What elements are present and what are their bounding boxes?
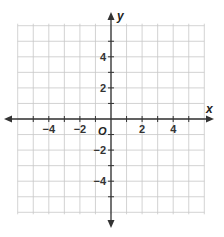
y-tick-label: 2 xyxy=(100,82,106,94)
x-tick-label: 4 xyxy=(170,123,177,135)
x-axis-left-arrow-icon xyxy=(4,116,12,123)
coordinate-plane: x y O −4−22442−2−4 xyxy=(0,0,224,237)
origin-label: O xyxy=(98,125,107,137)
y-axis-label: y xyxy=(116,9,125,23)
x-tick-label: −2 xyxy=(74,123,87,135)
y-tick-label: 4 xyxy=(100,51,107,63)
x-axis-right-arrow-icon xyxy=(206,116,214,123)
x-axis-label: x xyxy=(205,102,214,116)
y-axis-bottom-arrow-icon xyxy=(108,220,115,228)
y-axis-top-arrow-icon xyxy=(108,12,115,20)
y-tick-label: −2 xyxy=(93,144,106,156)
x-tick-label: −4 xyxy=(43,123,56,135)
y-tick-label: −4 xyxy=(93,175,106,187)
x-tick-label: 2 xyxy=(139,123,145,135)
